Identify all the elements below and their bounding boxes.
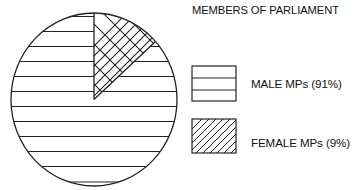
legend-label-female: FEMALE MPs (9%) [251,136,350,149]
legend-swatch-male [192,66,236,101]
pie-chart [0,0,357,190]
chart-title: MEMBERS OF PARLIAMENT [192,4,339,16]
legend-label-male: MALE MPs (91%) [251,77,342,90]
